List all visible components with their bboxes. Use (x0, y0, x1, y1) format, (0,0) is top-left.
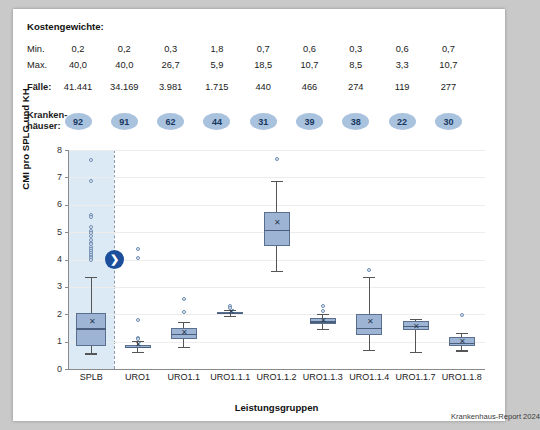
median-line (356, 328, 382, 329)
summary-cell: 0,6 (379, 44, 425, 54)
mean-marker: ✕ (413, 323, 420, 331)
whisker-cap-upper (271, 181, 283, 182)
whisker-lower (369, 335, 370, 350)
summary-cell: 8,5 (333, 60, 379, 70)
x-axis-tick-label: URO1.1.8 (433, 372, 491, 382)
summary-cell: 3.981 (148, 82, 194, 92)
whisker-cap-upper (317, 314, 329, 315)
whisker-upper (91, 277, 92, 313)
summary-cell: 440 (240, 82, 286, 92)
mean-marker: ✕ (320, 317, 327, 325)
whisker-cap-upper (178, 322, 190, 323)
outlier-point (182, 297, 186, 301)
y-axis-tick (65, 232, 68, 233)
summary-cell: 0,6 (287, 44, 333, 54)
summary-cell: 0,2 (55, 44, 101, 54)
summary-cell: 0,2 (101, 44, 147, 54)
whisker-lower (276, 246, 277, 271)
mean-marker: ✕ (367, 318, 374, 326)
summary-cell: 40,0 (55, 60, 101, 70)
summary-cell: 10,7 (287, 60, 333, 70)
summary-cell: 0,3 (148, 44, 194, 54)
y-axis-tick-label: 4 (46, 255, 62, 264)
summary-row: Min.0,20,20,31,80,70,60,30,60,7 (13, 44, 505, 60)
summary-cell: 0,3 (333, 44, 379, 54)
whisker-cap-upper (85, 277, 97, 278)
median-line (264, 230, 290, 231)
hospital-count-badge: 31 (250, 113, 277, 130)
summary-cell: 40,0 (101, 60, 147, 70)
summary-cell: 466 (287, 82, 333, 92)
y-axis-tick (65, 314, 68, 315)
summary-row: Fälle:41.44134.1693.9811.715440466274119… (13, 82, 505, 98)
whisker-lower (91, 346, 92, 354)
y-axis-tick-label: 6 (46, 200, 62, 209)
outlier-point (275, 157, 279, 161)
outlier-point (321, 304, 325, 308)
summary-cell: 10,7 (425, 60, 471, 70)
summary-cell: 277 (425, 82, 471, 92)
summary-cell: 274 (333, 82, 379, 92)
summary-table-title: Kostengewichte: (27, 21, 104, 32)
y-axis-line (68, 150, 69, 369)
summary-cell: 3,3 (379, 60, 425, 70)
gridline (68, 314, 485, 315)
hospital-count-badge: 22 (389, 113, 416, 130)
summary-cell: 18,5 (240, 60, 286, 70)
y-axis-tick-label: 0 (46, 365, 62, 374)
outlier-point (136, 256, 140, 260)
outlier-point (89, 258, 93, 262)
hospital-count-badge: 38 (342, 113, 369, 130)
y-axis-tick-label: 2 (46, 310, 62, 319)
summary-cell: 0,7 (240, 44, 286, 54)
gridline (68, 150, 485, 151)
whisker-cap-lower (363, 350, 375, 351)
summary-cell: 34.169 (101, 82, 147, 92)
y-axis-tick-label: 1 (46, 337, 62, 346)
y-axis-tick (65, 205, 68, 206)
summary-cell: 1.715 (194, 82, 240, 92)
outlier-point (460, 313, 464, 317)
plot-area: 012345678 ✕✕✕✕✕✕✕✕✕ ❯ SPLBURO1URO1.1URO1… (68, 150, 485, 369)
whisker-upper (276, 181, 277, 213)
outlier-point (321, 309, 325, 313)
boxplot-chart: 012345678 ✕✕✕✕✕✕✕✕✕ ❯ SPLBURO1URO1.1URO1… (13, 142, 505, 421)
x-axis-line (68, 369, 485, 370)
chevron-right-marker-icon: ❯ (105, 250, 124, 269)
outlier-point (89, 179, 93, 183)
mean-marker: ✕ (459, 338, 466, 346)
y-axis-tick (65, 177, 68, 178)
whisker-cap-upper (456, 333, 468, 334)
source-credit: Krankenhaus-Report 2024 (68, 412, 540, 421)
y-axis-tick (65, 369, 68, 370)
hospital-count-badge: 39 (296, 113, 323, 130)
y-axis-tick (65, 342, 68, 343)
whisker-cap-lower (317, 329, 329, 330)
whisker-cap-upper (363, 277, 375, 278)
whisker-lower (183, 339, 184, 347)
whisker-cap-lower (132, 352, 144, 353)
y-axis-title: CMI pro SPLG und KH (20, 79, 31, 199)
summary-cell: 1,8 (194, 44, 240, 54)
summary-table: Kostengewichte: Min.0,20,20,31,80,70,60,… (13, 9, 505, 142)
hospital-count-badge: 44 (203, 113, 230, 130)
mean-marker: ✕ (135, 341, 142, 349)
whisker-cap-lower (85, 353, 97, 354)
outlier-point (136, 318, 140, 322)
figure-card: Kostengewichte: Min.0,20,20,31,80,70,60,… (13, 9, 505, 421)
outlier-point (367, 268, 371, 272)
whisker-cap-lower (271, 271, 283, 272)
y-axis-tick (65, 150, 68, 151)
y-axis-tick-label: 8 (46, 146, 62, 155)
summary-row: Max.40,040,026,75,918,510,78,53,310,7 (13, 60, 505, 76)
gridline (68, 287, 485, 288)
whisker-cap-lower (178, 347, 190, 348)
summary-cell: 5,9 (194, 60, 240, 70)
y-axis-tick-label: 3 (46, 282, 62, 291)
y-axis-tick (65, 287, 68, 288)
gridline (68, 177, 485, 178)
whisker-cap-lower (456, 350, 468, 351)
summary-cell: 41.441 (55, 82, 101, 92)
mean-marker: ✕ (89, 318, 96, 326)
summary-cell: 119 (379, 82, 425, 92)
